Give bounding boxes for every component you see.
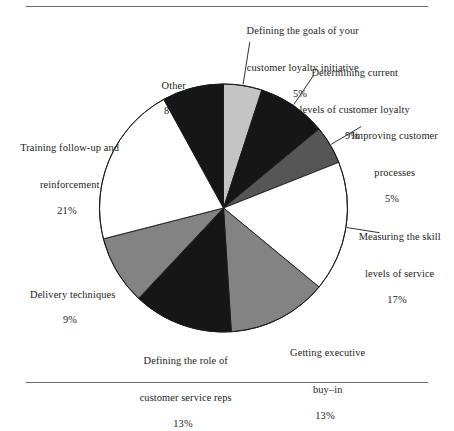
slice-percent: 13% xyxy=(100,418,266,431)
slice-label-getting-executive-buy-in: Getting executive buy–in 13% xyxy=(262,334,388,431)
slice-label-line: Other xyxy=(162,80,186,91)
slice-percent: 5% xyxy=(330,193,454,206)
slice-label-line: Improving customer xyxy=(352,130,438,141)
slice-percent: 21% xyxy=(2,205,132,218)
slice-label-training-follow-up: Training follow-up and reinforcement 21% xyxy=(2,129,132,230)
slice-label-line: Measuring the skill xyxy=(359,231,441,242)
slice-label-line: levels of customer loyalty xyxy=(300,104,410,115)
slice-label-line: Delivery techniques xyxy=(30,289,115,300)
slice-label-line: reinforcement xyxy=(40,179,100,190)
slice-label-line: buy–in xyxy=(313,384,342,395)
slice-label-line: levels of service xyxy=(365,268,434,279)
slice-label-line: customer service reps xyxy=(140,392,232,403)
slice-label-line: Defining the role of xyxy=(144,355,228,366)
slice-label-other: Other 8% xyxy=(126,67,216,130)
slice-label-delivery-techniques: Delivery techniques 9% xyxy=(8,276,132,339)
slice-label-line: processes xyxy=(374,167,415,178)
slice-label-improving-customer-processes: Improving customer processes 5% xyxy=(330,117,454,218)
slice-label-defining-role-of-reps: Defining the role of customer service re… xyxy=(100,342,266,431)
slice-label-measuring-skill-levels: Measuring the skill levels of service 17… xyxy=(340,218,454,319)
slice-label-line: Training follow-up and xyxy=(20,142,119,153)
slice-percent: 13% xyxy=(262,410,388,423)
slice-percent: 9% xyxy=(8,314,132,327)
slice-percent: 17% xyxy=(340,294,454,307)
slice-label-line: Defining the goals of your xyxy=(247,25,359,36)
slice-label-line: Getting executive xyxy=(290,347,365,358)
slice-label-line: Determining current xyxy=(311,67,397,78)
slice-percent: 8% xyxy=(126,105,216,118)
